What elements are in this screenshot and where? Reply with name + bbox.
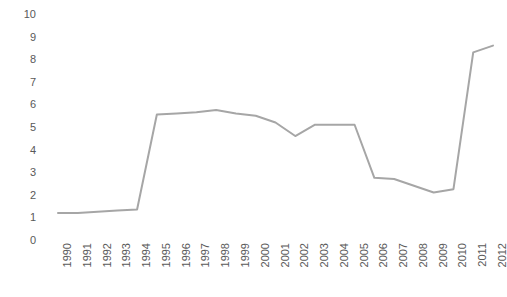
x-axis-tick-label: 2011 [477,243,488,267]
x-axis-tick-label: 1990 [62,243,73,267]
x-axis-tick-label: 1991 [82,243,93,267]
y-axis-tick-label: 9 [30,31,36,42]
y-axis-tick-label: 10 [24,9,36,20]
y-axis-tick-label: 4 [30,144,36,155]
x-axis-tick-label: 2002 [299,243,310,267]
x-axis-tick-label: 2005 [359,243,370,267]
x-axis-tick-label: 2003 [319,243,330,267]
x-axis-tick-label: 1997 [200,243,211,267]
y-axis-tick-label: 7 [30,76,36,87]
x-axis-tick-label: 2010 [457,243,468,267]
y-axis-tick-label: 8 [30,54,36,65]
x-axis-tick-label: 1995 [161,243,172,267]
x-axis-tick-label: 1993 [121,243,132,267]
y-axis: 012345678910 [0,0,44,250]
x-axis-tick-label: 2006 [378,243,389,267]
y-axis-tick-label: 2 [30,189,36,200]
x-axis-tick-label: 1996 [181,243,192,267]
x-axis-tick-label: 2012 [497,243,507,267]
y-axis-tick-label: 6 [30,99,36,110]
x-axis-tick-label: 2004 [339,243,350,267]
y-axis-tick-label: 3 [30,167,36,178]
x-axis-tick-label: 1994 [141,243,152,267]
line-chart: 012345678910 199019911992199319941995199… [0,0,507,297]
x-axis-tick-label: 1992 [102,243,113,267]
y-axis-tick-label: 1 [30,212,36,223]
chart-plot-svg [44,0,507,250]
x-axis-tick-label: 1999 [240,243,251,267]
plot-area [44,0,507,250]
y-axis-tick-label: 0 [30,235,36,246]
x-axis: 1990199119921993199419951996199719981999… [44,243,507,297]
x-axis-tick-label: 2001 [280,243,291,267]
y-axis-tick-label: 5 [30,122,36,133]
x-axis-tick-label: 2000 [260,243,271,267]
series-line-series-1 [58,46,493,213]
x-axis-tick-label: 1998 [220,243,231,267]
x-axis-tick-label: 2007 [398,243,409,267]
x-axis-tick-label: 2009 [438,243,449,267]
x-axis-tick-label: 2008 [418,243,429,267]
